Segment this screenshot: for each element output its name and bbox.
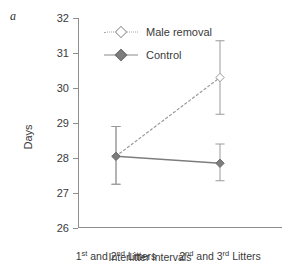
series-control [112,127,225,185]
filled-diamond-marker [216,159,224,167]
panel-label: a [10,10,16,22]
figure-panel: a 32313029282726 1st and 2nd Litters2nd … [0,0,300,273]
y-axis-title: Days [23,124,34,149]
legend-item: Control [104,49,212,61]
y-axis-tick-label: 32 [57,13,69,24]
chart-legend: Male removalControl [104,26,212,61]
y-axis-tick-label: 26 [57,223,69,234]
legend-item: Male removal [104,26,212,38]
series-line [116,78,220,157]
y-axis-tick-label: 30 [57,83,69,94]
x-axis-title: Interlitter intervals [0,252,300,263]
legend-swatch [104,26,138,38]
y-axis-tick-label: 27 [57,188,69,199]
series-line [116,156,220,163]
legend-label: Control [146,50,181,61]
filled-diamond-marker [112,152,120,160]
legend-swatch [104,49,138,61]
filled-diamond-icon [115,49,128,62]
legend-label: Male removal [146,27,212,38]
y-axis-tick-label: 28 [57,153,69,164]
y-axis-tick-label: 29 [57,118,69,129]
y-axis-tick-label: 31 [57,48,69,59]
y-axis-tick [73,228,78,229]
open-diamond-icon [115,26,128,39]
